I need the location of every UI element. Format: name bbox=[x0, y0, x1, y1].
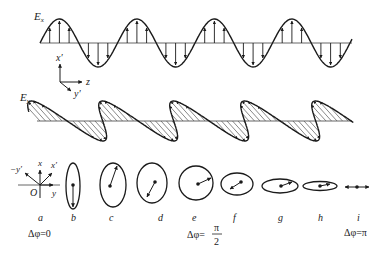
field-vector-h bbox=[320, 184, 330, 186]
ex-label: Ex bbox=[33, 10, 45, 24]
x-prime-arrow bbox=[40, 173, 52, 185]
axis-triad: x′ z y′ bbox=[55, 52, 90, 99]
axis-y-prime-label: y′ bbox=[73, 88, 81, 99]
ellipse-d bbox=[137, 163, 167, 203]
label-d: d bbox=[158, 212, 164, 223]
coordinate-system-a: −y′ x x′ O y bbox=[10, 158, 60, 198]
neg-y-prime-arrow bbox=[25, 173, 40, 185]
label-a: a bbox=[38, 212, 43, 223]
phase-label-i: Δφ=π bbox=[344, 227, 367, 238]
label-g: g bbox=[278, 212, 283, 223]
ey-hatch-line bbox=[314, 101, 332, 121]
label-c: c bbox=[109, 212, 114, 223]
neg-y-prime-label: −y′ bbox=[10, 164, 23, 174]
circle-e bbox=[179, 166, 213, 200]
field-vector-d bbox=[147, 182, 155, 197]
field-vector-f bbox=[230, 182, 241, 189]
ey-hatch-line bbox=[171, 102, 188, 121]
ey-hatch-line bbox=[320, 102, 337, 121]
state-g bbox=[262, 179, 298, 193]
state-i bbox=[345, 185, 369, 189]
state-f bbox=[221, 173, 253, 195]
phase-label-e: Δφ= π 2 bbox=[187, 222, 222, 247]
state-d bbox=[137, 163, 167, 203]
field-vector-e bbox=[198, 178, 211, 184]
ey-hatch-line bbox=[248, 102, 265, 121]
x-prime-label: x′ bbox=[50, 160, 58, 170]
state-c bbox=[100, 163, 126, 207]
ey-hatch-line bbox=[177, 102, 195, 122]
axis-x-prime-label: x′ bbox=[55, 52, 63, 63]
ellipse-c bbox=[100, 163, 126, 207]
phase-label-a: Δφ=0 bbox=[28, 228, 51, 239]
label-f: f bbox=[233, 212, 237, 223]
ey-label: Ey bbox=[19, 91, 31, 105]
label-i: i bbox=[357, 212, 360, 223]
ey-hatch-line bbox=[242, 102, 260, 122]
label-e: e bbox=[192, 212, 197, 223]
ey-hatch-line bbox=[105, 101, 123, 121]
y-label: y bbox=[51, 188, 56, 198]
x-label: x bbox=[37, 158, 42, 168]
state-e bbox=[179, 166, 213, 200]
phase-prefix-e: Δφ= bbox=[187, 229, 205, 240]
origin-label: O bbox=[30, 187, 37, 198]
polarization-diagram: Ex x′ z y′ Ey −y′ x x′ O y bbox=[0, 0, 385, 255]
ex-wave bbox=[40, 19, 352, 67]
label-h: h bbox=[318, 212, 323, 223]
label-b: b bbox=[71, 212, 76, 223]
ey-wave bbox=[28, 101, 354, 141]
field-vector-g bbox=[281, 182, 292, 186]
phase-denominator-e: 2 bbox=[214, 236, 219, 247]
ey-hatch-line bbox=[28, 108, 40, 121]
axis-z-label: z bbox=[85, 76, 90, 87]
phase-numerator-e: π bbox=[214, 222, 219, 233]
field-vector-c bbox=[110, 166, 117, 186]
state-h bbox=[303, 182, 337, 191]
y-prime-axis-arrow bbox=[60, 82, 71, 91]
state-b bbox=[66, 163, 80, 209]
